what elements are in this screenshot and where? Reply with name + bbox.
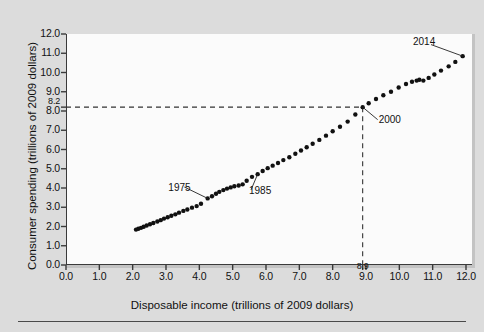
- x-tick-label: 11.0: [416, 270, 450, 282]
- chart-canvas: [0, 0, 484, 332]
- x-tick-label: 2.0: [116, 270, 150, 282]
- x-tick-label: 12.0: [449, 270, 483, 282]
- x-tick-label: 1.0: [82, 270, 116, 282]
- x-tick-label: 10.0: [382, 270, 416, 282]
- annotation-1975: 1975: [168, 182, 190, 193]
- x-tick-label: 3.0: [149, 270, 183, 282]
- annotation-2014: 2014: [413, 36, 435, 47]
- annotation-leader-lines: [184, 45, 462, 199]
- data-points: [134, 54, 465, 232]
- x-tick-label-highlight: 8.9: [346, 261, 380, 271]
- reference-lines: [66, 107, 363, 265]
- axis-ticks: [61, 34, 466, 270]
- x-axis-title: Disposable income (trillions of 2009 dol…: [0, 299, 484, 311]
- y-axis-title: Consumer spending (trillions of 2009 dol…: [26, 31, 38, 281]
- x-tick-label: 6.0: [249, 270, 283, 282]
- x-tick-label: 4.0: [182, 270, 216, 282]
- page-divider-rule: [18, 321, 466, 322]
- annotation-1985: 1985: [249, 185, 271, 196]
- chart-figure: 0.01.02.03.04.05.06.07.08.09.010.011.012…: [0, 0, 484, 332]
- x-tick-label: 8.0: [316, 270, 350, 282]
- x-tick-label: 9.0: [349, 270, 383, 282]
- x-tick-label: 7.0: [282, 270, 316, 282]
- annotation-2000: 2000: [379, 114, 401, 125]
- x-tick-label: 0.0: [49, 270, 83, 282]
- x-tick-label: 5.0: [216, 270, 250, 282]
